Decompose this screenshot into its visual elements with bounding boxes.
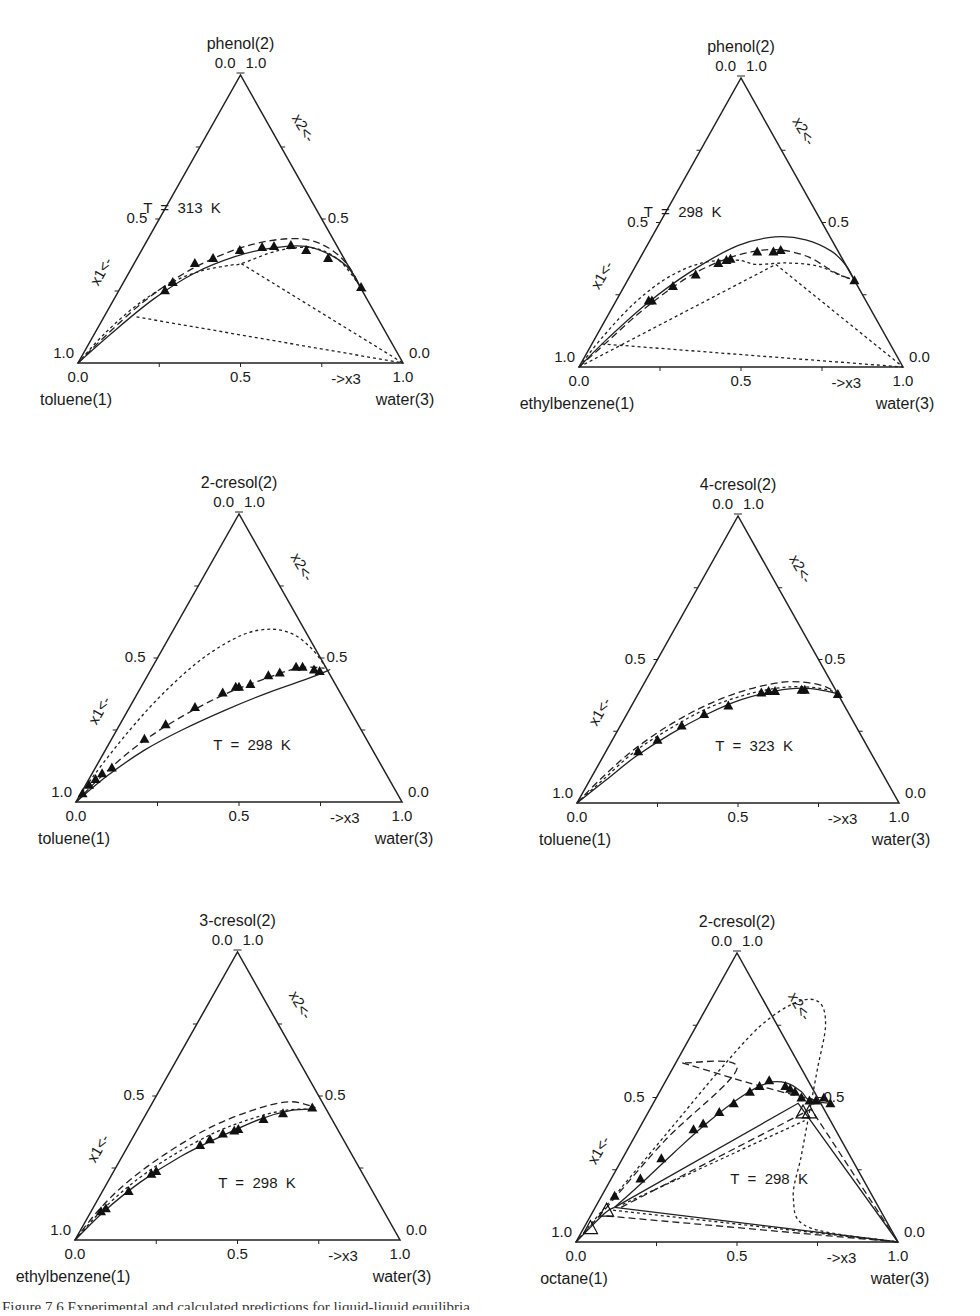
ternary-panel-2: phenol(2)0.01.00.50.51.00.00.00.51.0->x3…	[520, 38, 935, 412]
series-long-dash	[78, 239, 362, 363]
data-marker-filled-triangle	[190, 258, 200, 267]
series-long-dash	[75, 1102, 316, 1240]
axis-label-x3: ->x3	[330, 809, 360, 826]
vertex-label-right: water(3)	[372, 1268, 432, 1285]
data-marker-filled-triangle	[218, 688, 228, 697]
data-marker-filled-triangle	[139, 734, 149, 743]
tick-label: 0.0	[566, 1247, 587, 1264]
tick-label: 0.0	[904, 1223, 925, 1240]
data-marker-filled-triangle	[745, 1087, 755, 1096]
data-marker-filled-triangle	[610, 1191, 620, 1200]
vertex-label-left: ethylbenzene(1)	[16, 1268, 131, 1285]
series-solid	[78, 246, 362, 363]
tick-label: 0.5	[230, 368, 251, 385]
vertex-label-top: 4-cresol(2)	[700, 476, 776, 493]
tick-label: 1.0	[551, 1223, 572, 1240]
tick-label: 1.0	[893, 372, 914, 389]
axis-label-x3: ->x3	[331, 370, 361, 387]
tick-label: 0.0	[569, 372, 590, 389]
tick-label: 1.0	[746, 57, 767, 74]
data-marker-filled-triangle	[764, 1075, 774, 1084]
vertex-label-right: water(3)	[375, 391, 435, 408]
data-marker-filled-triangle	[107, 762, 117, 771]
tick-label: 0.5	[731, 372, 752, 389]
tick-label: 0.5	[328, 209, 349, 226]
tick-label: 0.0	[567, 808, 588, 825]
axis-label-x2: x2<-	[286, 988, 316, 1022]
tick-label: 0.0	[712, 495, 733, 512]
axis-label-x3: ->x3	[328, 1247, 358, 1264]
tick-label: 1.0	[888, 1247, 909, 1264]
temperature-annotation: T = 298 K	[644, 203, 722, 220]
ternary-panel-6: 2-cresol(2)0.01.00.50.51.00.00.00.51.0->…	[540, 913, 929, 1287]
data-marker-filled-triangle	[257, 242, 267, 251]
axis-label-x2: x2<-	[789, 114, 819, 148]
series-short-dash	[78, 247, 358, 363]
data-marker-filled-triangle	[160, 285, 170, 294]
tick-label: 1.0	[50, 1221, 71, 1238]
vertex-label-left: octane(1)	[540, 1270, 608, 1287]
data-marker-filled-triangle	[97, 768, 107, 777]
vertex-label-left: toluene(1)	[38, 830, 110, 847]
tick-label: 1.0	[889, 808, 910, 825]
tick-label: 1.0	[390, 1245, 411, 1262]
data-marker-filled-triangle	[849, 275, 859, 284]
tick-label: 0.5	[825, 650, 846, 667]
tick-label: 0.5	[824, 1088, 845, 1105]
axis-label-x1: x1<-	[584, 1133, 614, 1167]
vertex-label-left: ethylbenzene(1)	[520, 395, 635, 412]
data-marker-filled-triangle	[635, 1173, 645, 1182]
tick-label: 0.0	[215, 54, 236, 71]
tick-label: 1.0	[742, 932, 763, 949]
series-tie-line-2	[241, 264, 403, 363]
data-marker-filled-triangle	[633, 746, 643, 755]
tick-label: 1.0	[554, 348, 575, 365]
vertex-label-top: 2-cresol(2)	[201, 474, 277, 491]
temperature-annotation: T = 323 K	[715, 737, 793, 754]
data-marker-filled-triangle	[298, 662, 308, 671]
series-long-dash	[579, 250, 854, 367]
vertex-label-top: 2-cresol(2)	[699, 913, 775, 930]
data-marker-filled-triangle	[768, 246, 778, 255]
axis-label-x1: x1<-	[86, 254, 116, 288]
data-marker-filled-triangle	[245, 679, 255, 688]
axis-label-x3: ->x3	[831, 374, 861, 391]
data-marker-filled-triangle	[307, 1103, 317, 1112]
tick-label: 0.5	[123, 1086, 144, 1103]
data-marker-filled-triangle	[713, 258, 723, 267]
ternary-figure: phenol(2)0.01.00.50.51.00.00.00.51.0->x3…	[0, 0, 980, 1316]
ternary-panel-4: 4-cresol(2)0.01.00.50.51.00.00.00.51.0->…	[539, 476, 930, 848]
tick-label: 1.0	[243, 931, 264, 948]
data-marker-filled-triangle	[151, 1166, 161, 1175]
series-solid-left	[576, 1207, 615, 1242]
data-marker-filled-triangle	[218, 1128, 228, 1137]
tick-label: 1.0	[552, 784, 573, 801]
axis-label-x1: x1<-	[83, 1131, 113, 1165]
data-marker-filled-triangle	[168, 277, 178, 286]
series-solid	[579, 237, 854, 367]
series-tie-line-1	[137, 317, 404, 363]
tick-label: 0.5	[625, 650, 646, 667]
data-marker-filled-triangle	[101, 1203, 111, 1212]
vertex-label-top: 3-cresol(2)	[199, 912, 275, 929]
tick-label: 0.0	[66, 807, 87, 824]
tick-label: 0.5	[325, 1086, 346, 1103]
ternary-panel-5: 3-cresol(2)0.01.00.50.51.00.00.00.51.0->…	[16, 912, 432, 1285]
tick-label: 1.0	[246, 54, 267, 71]
tick-label: 1.0	[53, 344, 74, 361]
series-long-dash	[577, 682, 838, 803]
tick-label: 0.0	[409, 344, 430, 361]
data-marker-filled-triangle	[755, 1081, 765, 1090]
axis-label-x3: ->x3	[828, 810, 858, 827]
series-solid-tie-1	[615, 1207, 898, 1242]
series-short-dash	[76, 629, 325, 802]
tick-label: 0.0	[406, 1221, 427, 1238]
vertex-label-right: water(3)	[374, 830, 434, 847]
tick-label: 0.5	[327, 648, 348, 665]
tick-label: 1.0	[244, 493, 265, 510]
tick-label: 1.0	[392, 807, 413, 824]
tick-label: 0.5	[227, 1245, 248, 1262]
temperature-annotation: T = 298 K	[213, 736, 291, 753]
vertex-label-top: phenol(2)	[707, 38, 775, 55]
vertex-label-top: phenol(2)	[207, 35, 275, 52]
